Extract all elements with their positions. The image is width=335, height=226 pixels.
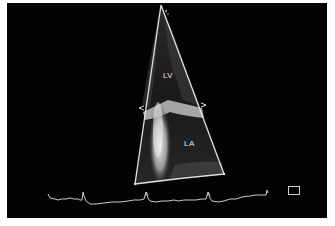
ecg-trace xyxy=(48,190,268,204)
apex-marker xyxy=(165,10,167,12)
la-label: LA xyxy=(184,139,195,148)
left-depth-marker xyxy=(139,106,144,110)
lv-label: LV xyxy=(163,71,173,80)
echo-scene xyxy=(0,0,335,226)
square-outline-icon xyxy=(288,186,300,195)
right-depth-marker xyxy=(201,103,206,107)
